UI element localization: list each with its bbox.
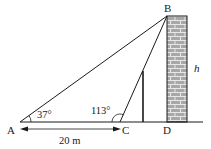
label-distance-AC: 20 m	[59, 135, 80, 146]
label-C: C	[122, 124, 129, 136]
geometry-diagram: A B C D h 37° 113° 20 m	[0, 0, 211, 149]
label-A: A	[7, 124, 15, 136]
angle-arc-A	[29, 116, 31, 123]
label-h: h	[194, 62, 200, 74]
arrowhead-right	[113, 127, 121, 132]
label-angle-C: 113°	[91, 105, 111, 116]
label-D: D	[163, 124, 171, 136]
arrowhead-left	[20, 127, 28, 132]
brick-wall	[167, 16, 187, 122]
label-angle-A: 37°	[37, 109, 52, 120]
label-B: B	[164, 2, 171, 14]
